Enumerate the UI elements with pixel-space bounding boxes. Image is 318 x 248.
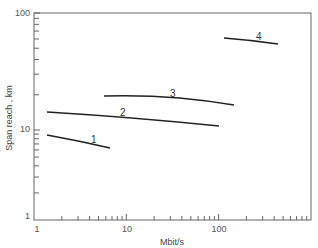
x-tick-label-100: 100 xyxy=(211,224,226,234)
y-axis-title: Span reach , km xyxy=(4,85,14,151)
curve-2 xyxy=(47,112,219,126)
y-tick-label-10: 10 xyxy=(20,124,30,134)
curve-label-4: 4 xyxy=(256,31,262,42)
curve-label-1: 1 xyxy=(91,134,97,145)
curve-1 xyxy=(47,135,110,148)
y-tick-label-100: 100 xyxy=(15,8,30,18)
x-axis-ticks xyxy=(62,214,307,220)
curve-label-2: 2 xyxy=(120,107,126,118)
plot-frame xyxy=(34,13,311,220)
y-tick-label-1: 1 xyxy=(25,211,30,221)
curve-3 xyxy=(104,96,234,105)
x-tick-label-10: 10 xyxy=(122,224,132,234)
curve-4 xyxy=(224,38,278,44)
y-axis-ticks xyxy=(34,13,40,193)
curve-label-3: 3 xyxy=(170,88,176,99)
chart: 100 10 1 1 10 100 Mbit/s Span reach , km… xyxy=(0,0,318,248)
x-axis-title: Mbit/s xyxy=(160,237,185,247)
x-tick-label-1: 1 xyxy=(34,224,39,234)
